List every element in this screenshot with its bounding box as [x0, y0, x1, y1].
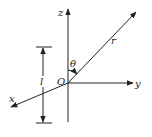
length-label: l: [40, 76, 43, 87]
coordinate-diagram: z y x r O θ l: [0, 0, 152, 137]
z-axis-label: z: [57, 7, 64, 18]
x-axis-label: x: [9, 93, 15, 104]
origin-label: O: [57, 76, 65, 87]
theta-label: θ: [70, 58, 76, 69]
r-vector: [68, 12, 136, 83]
r-vector-label: r: [111, 35, 117, 46]
theta-arc: [68, 70, 77, 74]
y-axis-label: y: [134, 78, 141, 89]
